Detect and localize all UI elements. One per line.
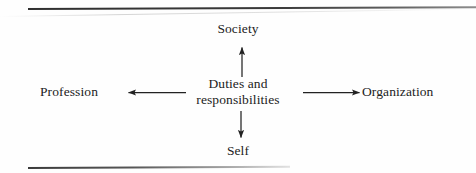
node-label-profession: Profession bbox=[14, 84, 124, 100]
bottom-horizontal-rule bbox=[28, 166, 290, 169]
node-label-self: Self bbox=[0, 143, 476, 159]
figure-canvas: Society Duties and responsibilities Prof… bbox=[0, 0, 476, 173]
node-label-organization: Organization bbox=[362, 84, 474, 100]
node-label-society: Society bbox=[0, 21, 476, 37]
